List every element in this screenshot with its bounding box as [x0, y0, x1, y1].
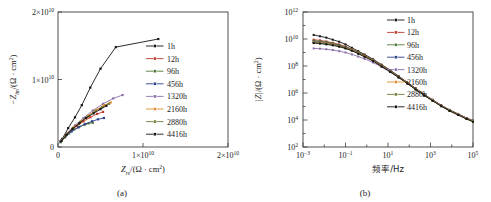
panel-a-legend-label: 2880h: [167, 118, 187, 127]
panel-b-data-point: [389, 71, 391, 73]
panel-a-tick-label: 1×1010: [32, 74, 54, 84]
panel-b-data-point: [345, 47, 347, 49]
panel-a-data-point: [91, 120, 93, 122]
panel-b-legend-label: 2160h: [407, 78, 427, 87]
panel-a-legend-marker: [154, 57, 157, 60]
panel-b-legend-label: 2880h: [407, 90, 427, 99]
panel-b-data-point: [398, 76, 400, 78]
panel-b-data-point: [364, 58, 366, 60]
panel-a-legend-label: 2160h: [167, 105, 187, 114]
panel-b-legend-label: 456h: [407, 53, 423, 62]
panel-a-legend-label: 456h: [167, 80, 183, 89]
panel-a-caption: (a): [117, 188, 127, 198]
panel-a-series-line: [61, 104, 109, 141]
panel-b-data-point: [440, 105, 442, 107]
panel-b-tick-label: 101: [383, 150, 394, 160]
panel-b-data-point: [364, 56, 366, 58]
panel-b-tick-label: 105: [468, 150, 479, 160]
panel-b-data-point: [351, 53, 353, 55]
panel-a-legend-marker: [154, 133, 157, 136]
panel-b-legend-marker: [395, 44, 398, 47]
panel-a-data-point: [84, 123, 86, 125]
panel-a-series-line: [61, 102, 110, 140]
panel-a-legend-marker: [154, 95, 157, 98]
panel-b-tick-label: 10−3: [296, 150, 310, 160]
panel-b-legend-marker: [395, 106, 398, 109]
panel-b-data-point: [345, 43, 347, 45]
panel-a-axes: [58, 12, 228, 147]
panel-a-data-point: [93, 112, 95, 114]
panel-a-data-point: [115, 46, 117, 48]
panel-b-tick-label: 1010: [284, 34, 298, 44]
panel-a-data-point: [78, 122, 80, 124]
panel-a-data-point: [99, 68, 101, 70]
panel-b-data-point: [381, 66, 383, 68]
panel-b-data-point: [338, 50, 340, 52]
panel-a-x-axis-title: Zre/(Ω · cm2): [121, 164, 165, 176]
panel-b-data-point: [319, 48, 321, 50]
panel-a-legend-marker: [154, 45, 157, 48]
panel-b-y-axis-title: |Z|/(Ω · cm2): [253, 57, 263, 101]
panel-b-series-line: [314, 40, 473, 121]
panel-a-tick-label: 0: [50, 143, 54, 152]
panel-b-x-axis-title: 频率/Hz: [372, 164, 404, 174]
panel-a-data-point: [96, 113, 98, 115]
panel-a-legend-marker: [154, 83, 157, 86]
panel-a-legend-label: 4416h: [167, 130, 187, 139]
panel-a-data-point: [74, 116, 76, 118]
panel-b-caption: (b): [360, 188, 371, 198]
panel-b-legend-marker: [395, 81, 398, 84]
panel-b-data-point: [325, 48, 327, 50]
panel-b-tick-label: 1012: [284, 7, 298, 17]
panel-a-legend-label: 1h: [167, 42, 175, 51]
panel-a-tick-label: 2×1010: [32, 7, 54, 17]
figure-root: 01×10102×101001×10102×1010 1h12h96h456h1…: [0, 0, 491, 202]
panel-b-data-point: [449, 110, 451, 112]
panel-a-data-point: [102, 111, 104, 113]
panel-a-legend-marker: [154, 70, 157, 73]
panel-a-data-point: [99, 108, 101, 110]
panel-a-tick-label: 2×1010: [217, 150, 239, 160]
panel-b-series-group: [313, 34, 474, 123]
panel-a-tick-label: 0: [56, 151, 60, 160]
panel-a-series-group: [59, 38, 159, 143]
panel-a-data-point: [77, 126, 79, 128]
panel-a-data-point: [105, 105, 107, 107]
panel-a-legend-marker: [154, 120, 157, 123]
panel-b-tick-labels: 10−310−110110310510210410610810101012: [284, 7, 478, 160]
panel-b-data-point: [372, 60, 374, 62]
panel-a-data-point: [71, 128, 73, 130]
panel-a-data-point: [89, 116, 91, 118]
panel-b-legend-label: 1h: [407, 16, 415, 25]
panel-b-legend-label: 1320h: [407, 66, 427, 75]
panel-b-legend-label: 4416h: [407, 103, 427, 112]
panel-a-legend-label: 96h: [167, 67, 179, 76]
panel-b-tick-label: 106: [287, 88, 298, 98]
panel-b-data-point: [345, 52, 347, 54]
panel-a-series-line: [61, 95, 122, 140]
panel-a-data-point: [81, 104, 83, 106]
panel-b-legend-marker: [395, 56, 398, 59]
panel-b-legend-marker: [395, 68, 398, 71]
panel-b-legend-marker: [395, 19, 398, 22]
panel-a-svg: 01×10102×101001×10102×1010 1h12h96h456h1…: [0, 0, 245, 202]
panel-b-bode: 10−310−110110310510210410610810101012 1h…: [245, 0, 491, 202]
panel-b-data-point: [357, 53, 359, 55]
panel-a-legend-label: 12h: [167, 55, 179, 64]
panel-b-tick-label: 108: [287, 61, 298, 71]
panel-a-legend-label: 1320h: [167, 92, 187, 101]
panel-a-legend: 1h12h96h456h1320h2160h2880h4416h: [146, 42, 187, 139]
panel-a-data-point: [89, 87, 91, 89]
panel-b-data-point: [338, 41, 340, 43]
panel-a-tick-label: 1×1010: [132, 150, 154, 160]
panel-a-nyquist: 01×10102×101001×10102×1010 1h12h96h456h1…: [0, 0, 245, 202]
panel-b-data-point: [466, 118, 468, 120]
panel-b-data-point: [313, 42, 315, 44]
panel-b-legend-marker: [395, 31, 398, 34]
panel-a-data-point: [157, 38, 159, 40]
panel-b-legend-label: 12h: [407, 28, 419, 37]
panel-a-data-point: [112, 97, 114, 99]
panel-a-data-point: [122, 94, 124, 96]
panel-b-data-point: [319, 35, 321, 37]
panel-b-tick-label: 103: [425, 150, 436, 160]
